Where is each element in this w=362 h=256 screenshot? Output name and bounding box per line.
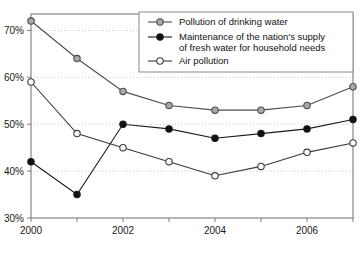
data-point — [258, 130, 264, 136]
legend-label: Pollution of drinking water — [179, 16, 288, 27]
data-point — [350, 116, 356, 122]
legend-entry-2: of fresh water for household needs — [179, 42, 326, 53]
x-tick-label: 2000 — [20, 225, 43, 236]
chart-legend: Pollution of drinking waterMaintenance o… — [139, 12, 353, 72]
data-point — [28, 79, 34, 85]
data-point — [350, 83, 356, 89]
data-point — [28, 18, 34, 24]
data-point — [304, 149, 310, 155]
y-tick-label: 50% — [4, 119, 24, 130]
data-point — [166, 126, 172, 132]
data-point — [304, 102, 310, 108]
data-point — [74, 130, 80, 136]
data-point — [258, 107, 264, 113]
legend-marker-icon — [157, 34, 163, 40]
legend-label: of fresh water for household needs — [179, 42, 326, 53]
chart-canvas: 30%40%50%60%70% 2000200220042006 Polluti… — [0, 0, 362, 256]
y-tick-label: 40% — [4, 166, 24, 177]
data-point — [166, 159, 172, 165]
legend-marker-icon — [157, 58, 163, 64]
legend-label: Maintenance of the nation's supply — [179, 31, 325, 42]
legend-marker-icon — [157, 19, 163, 25]
data-point — [304, 126, 310, 132]
data-point — [212, 173, 218, 179]
data-point — [28, 159, 34, 165]
data-point — [120, 144, 126, 150]
data-point — [120, 88, 126, 94]
data-point — [350, 140, 356, 146]
y-tick-label: 30% — [4, 213, 24, 224]
data-point — [166, 102, 172, 108]
y-tick-label: 60% — [4, 72, 24, 83]
data-point — [212, 135, 218, 141]
data-point — [74, 55, 80, 61]
data-point — [120, 121, 126, 127]
data-point — [74, 191, 80, 197]
line-chart: 30%40%50%60%70% 2000200220042006 Polluti… — [0, 0, 362, 256]
x-tick-label: 2004 — [204, 225, 227, 236]
y-tick-label: 70% — [4, 25, 24, 36]
legend-label: Air pollution — [179, 55, 229, 66]
data-point — [258, 163, 264, 169]
x-tick-label: 2006 — [296, 225, 319, 236]
data-point — [212, 107, 218, 113]
x-tick-label: 2002 — [112, 225, 135, 236]
